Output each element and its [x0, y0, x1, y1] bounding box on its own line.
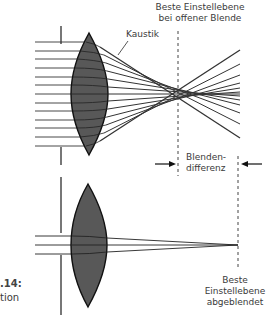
label-line: Beste Einstellebene — [140, 2, 260, 13]
incoming-rays-stopped — [35, 236, 72, 254]
label-line: abgeblendet — [203, 297, 267, 308]
caustic-leader-line — [118, 41, 128, 55]
lens-stopped — [71, 184, 107, 307]
optics-drawing — [0, 0, 268, 315]
label-focus-difference: Blenden- differenz — [186, 152, 226, 174]
figure-caption-fragment: tion — [0, 292, 19, 303]
label-line: differenz — [186, 163, 226, 174]
label-line: Blenden- — [186, 152, 226, 163]
label-line: Beste — [203, 275, 267, 286]
label-line: Einstellebene — [203, 286, 267, 297]
diagram-canvas: Beste Einstellebene bei offener Blende K… — [0, 0, 268, 315]
figure-number: .14: — [0, 278, 22, 289]
label-line: bei offener Blende — [140, 13, 260, 24]
label-best-plane-open: Beste Einstellebene bei offener Blende — [140, 2, 260, 24]
label-best-plane-stopped: Beste Einstellebene abgeblendet — [203, 275, 267, 308]
label-caustic: Kaustik — [126, 29, 159, 40]
refracted-rays-open — [100, 47, 240, 141]
